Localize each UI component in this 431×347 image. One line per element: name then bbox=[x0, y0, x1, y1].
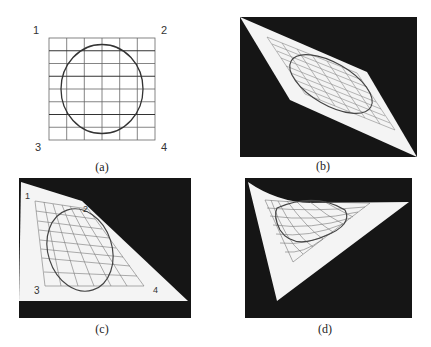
corner-label-3: 3 bbox=[34, 285, 40, 296]
perspective-warp bbox=[0, 170, 215, 347]
caption-d: (d) bbox=[305, 322, 345, 337]
affine-warp bbox=[215, 0, 431, 175]
corner-label-1: 1 bbox=[25, 191, 30, 201]
grid-with-circle bbox=[0, 0, 215, 170]
corner-label-2: 2 bbox=[83, 204, 88, 214]
corner-label-4: 4 bbox=[153, 285, 158, 295]
panel-b: (b) bbox=[215, 0, 431, 175]
panel-a: 1 2 3 4 (a) bbox=[0, 0, 215, 170]
panel-c: 1 2 3 4 (c) bbox=[0, 170, 215, 347]
nonlinear-warp bbox=[215, 170, 431, 347]
caption-c: (c) bbox=[82, 322, 122, 337]
panel-d: (d) bbox=[215, 170, 431, 347]
